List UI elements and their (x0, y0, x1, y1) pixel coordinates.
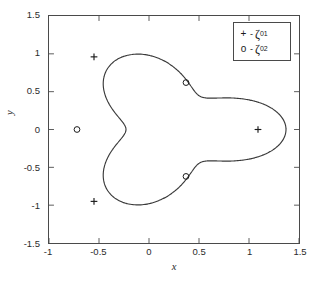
x-tick-label: 1.5 (293, 246, 306, 257)
x-axis-title: x (48, 261, 300, 272)
y-tick-label: -1 (32, 201, 40, 211)
zeta02-marker-group (74, 80, 189, 180)
x-tick-label: -1 (44, 246, 52, 257)
y-tick-label: -0.5 (24, 163, 40, 173)
y-axis-tick-labels: 1.5 1 0.5 0 -0.5 -1 -1.5 (0, 15, 44, 244)
zeta01-marker-group (91, 53, 262, 204)
plus-marker-icon: + (239, 29, 248, 39)
legend-item-zeta02: o - ζ02 (239, 41, 286, 56)
figure-canvas: 1.5 1 0.5 0 -0.5 -1 -1.5 y (0, 0, 316, 291)
y-tick-label: 0 (35, 125, 40, 135)
zeta02-circle-marker (74, 127, 80, 133)
legend-item-zeta01: + - ζ01 (239, 26, 286, 41)
x-tick-label: 0 (146, 246, 151, 257)
x-tick-label: 0.5 (193, 246, 206, 257)
y-tick-label: -1.5 (24, 239, 40, 249)
x-tick-label: 1 (247, 246, 252, 257)
y-axis-title: y (4, 110, 15, 115)
y-tick-label: 1.5 (27, 10, 40, 20)
legend-box: + - ζ01 o - ζ02 (233, 22, 291, 61)
legend-separator: - (248, 44, 255, 54)
legend-separator: - (248, 29, 255, 39)
y-tick-label: 0.5 (27, 86, 40, 96)
circle-marker-icon: o (239, 44, 248, 54)
x-axis-tick-labels: -1 -0.5 0 0.5 1 1.5 (48, 246, 300, 262)
y-tick-label: 1 (35, 48, 40, 58)
legend-subscript: 01 (260, 30, 268, 37)
legend-subscript: 02 (260, 45, 268, 52)
x-tick-label: -0.5 (90, 246, 106, 257)
